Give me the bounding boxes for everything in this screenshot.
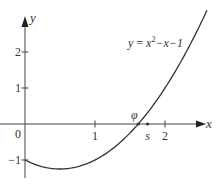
- y-axis-arrow: [22, 16, 29, 27]
- y-tick-label: 2: [15, 45, 21, 59]
- ticks: 1221−1: [8, 45, 168, 167]
- function-curve: [25, 10, 207, 169]
- x-axis-label: x: [205, 116, 212, 131]
- x-axis-arrow: [196, 121, 206, 128]
- x-tick-label: 1: [92, 129, 98, 143]
- point-s-label: s: [145, 129, 150, 143]
- point-phi: [137, 122, 140, 125]
- point-phi-label: φ: [131, 108, 138, 122]
- x-tick-label: 2: [162, 129, 168, 143]
- function-graph: 1221−1 φs y x 0 y = x2−x−1: [0, 0, 221, 184]
- y-axis-label: y: [28, 10, 36, 25]
- y-tick-label: 1: [15, 81, 21, 95]
- origin-label: 0: [15, 127, 21, 141]
- point-s: [146, 122, 149, 125]
- function-label: y = x2−x−1: [127, 35, 183, 50]
- y-tick-label: −1: [8, 153, 21, 167]
